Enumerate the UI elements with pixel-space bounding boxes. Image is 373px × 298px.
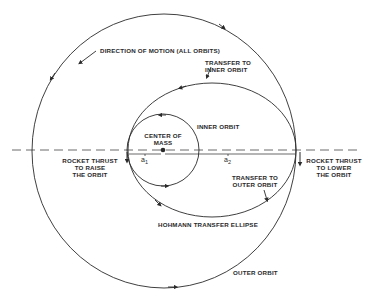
thrust-lower-label: ROCKET THRUST TO LOWER THE ORBIT (304, 158, 364, 178)
a2-label: a2 (224, 156, 231, 163)
direction-pointer-arrow (80, 51, 96, 63)
inner-orbit-label: INNER ORBIT (197, 124, 239, 131)
center-of-mass-dot (161, 148, 166, 153)
a2-subscript: 2 (228, 159, 231, 165)
transfer-inner-line2: INNER ORBIT (205, 67, 261, 74)
center-line2: MASS (143, 140, 183, 147)
raise-line3: THE ORBIT (60, 172, 120, 179)
thrust-raise-label: ROCKET THRUST TO RAISE THE ORBIT (60, 158, 120, 178)
transfer-arrow-top (180, 86, 186, 88)
orbit-diagram (0, 0, 373, 298)
outer-orbit-arrow-left (51, 73, 55, 79)
lower-line3: THE ORBIT (304, 172, 364, 179)
transfer-outer-pointer-arrow (264, 190, 267, 200)
outer-orbit-label: OUTER ORBIT (233, 270, 278, 277)
transfer-outer-line2: OUTER ORBIT (230, 182, 280, 189)
a1-label: a1 (141, 156, 148, 163)
transfer-inner-label: TRANSFER TO INNER ORBIT (205, 60, 261, 74)
transfer-outer-label: TRANSFER TO OUTER ORBIT (230, 175, 280, 189)
hohmann-label: HOHMANN TRANSFER ELLIPSE (158, 222, 258, 229)
a1-subscript: 1 (145, 159, 148, 165)
center-of-mass-label: CENTER OF MASS (143, 133, 183, 147)
direction-label: DIRECTION OF MOTION (ALL ORBITS) (100, 48, 220, 55)
